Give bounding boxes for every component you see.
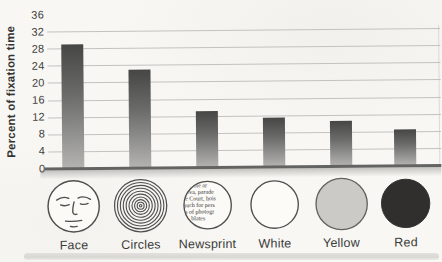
y-tick-label: 24	[12, 59, 44, 72]
y-tick-label: 28	[12, 42, 44, 55]
stimulus-label: Circles	[108, 237, 174, 252]
y-tick-label: 32	[12, 25, 44, 38]
stimulus-label: White	[242, 236, 308, 251]
bar-white	[263, 117, 285, 166]
stimulus-circles: Circles	[107, 176, 174, 252]
grid-line	[47, 28, 440, 32]
bar-yellow	[329, 121, 351, 166]
stimulus-label: Face	[41, 238, 107, 253]
grid-line	[47, 45, 440, 49]
stimulus-face: Face	[40, 177, 107, 253]
concentric-circles-icon	[111, 176, 170, 235]
stimulus-yellow: Yellow	[308, 175, 375, 251]
y-tick-label: 4	[13, 145, 45, 158]
stimulus-label: Newsprint	[174, 237, 240, 252]
red-disc-icon	[376, 174, 435, 233]
paper: Percent of fixation time 048121620242832…	[0, 0, 442, 262]
grid-line	[47, 62, 440, 66]
stimulus-white: White	[241, 175, 308, 251]
newsprint-text-line: much for pers	[181, 202, 215, 208]
y-tick-label: 16	[13, 94, 45, 107]
newsprint-icon: rtable ar llova, parade tre Court, hois …	[178, 176, 237, 235]
grid-line	[48, 114, 441, 118]
grid-line	[48, 80, 441, 84]
grid-line	[48, 97, 441, 101]
grid-line	[48, 131, 441, 135]
bar-face	[61, 44, 84, 168]
stimulus-label: Yellow	[308, 236, 374, 251]
page-shadow	[24, 253, 439, 260]
newsprint-text-line: ts of photogr	[183, 208, 214, 214]
newsprint-text-line: blates	[191, 215, 206, 221]
y-tick-label: 8	[13, 128, 45, 141]
y-tick-label: 20	[13, 76, 45, 89]
y-tick-label: 0	[13, 162, 45, 175]
stimulus-newsprint: rtable ar llova, parade tre Court, hois …	[174, 176, 241, 252]
yellow-disc-icon	[312, 175, 371, 234]
newsprint-text-line: tre Court, hois	[181, 195, 216, 201]
face-icon	[44, 177, 103, 236]
stimulus-label: Red	[373, 235, 439, 250]
bar-newsprint	[195, 111, 217, 167]
y-tick-label: 36	[12, 8, 44, 21]
newsprint-text-line: rtable ar	[187, 182, 207, 188]
figure: Percent of fixation time 048121620242832…	[0, 0, 442, 262]
y-tick-label: 12	[13, 111, 45, 124]
bar-circles	[128, 69, 151, 168]
white-disc-icon	[245, 175, 304, 234]
stimulus-red: Red	[372, 174, 439, 250]
bar-red	[394, 129, 416, 166]
grid-line	[48, 148, 441, 152]
